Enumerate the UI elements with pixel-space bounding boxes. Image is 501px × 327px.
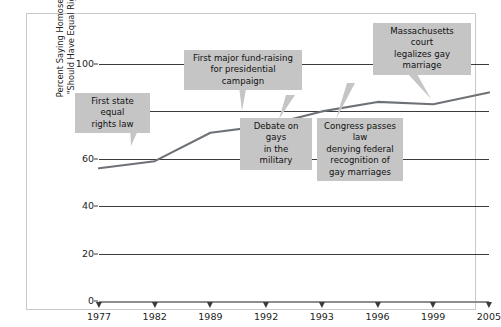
x-tick-label-2005: 2005 [477, 312, 501, 322]
x-tick-label-1977: 1977 [87, 312, 111, 322]
chart-frame: Percent Saying Homosexuals "Should Have … [26, 13, 476, 310]
x-tick-label-1989: 1989 [198, 312, 222, 322]
x-tick-label-1992: 1992 [254, 312, 278, 322]
x-tick-2005: 2005 [477, 301, 501, 322]
x-tick-label-1999: 1999 [421, 312, 445, 322]
x-tick-label-1996: 1996 [365, 312, 389, 322]
x-tick-marker-icon [486, 302, 492, 308]
x-tick-label-1993: 1993 [310, 312, 334, 322]
callout-massachusetts-court: Massachusetts court legalizes gay marria… [373, 23, 471, 75]
x-tick-label-1982: 1982 [143, 312, 167, 322]
